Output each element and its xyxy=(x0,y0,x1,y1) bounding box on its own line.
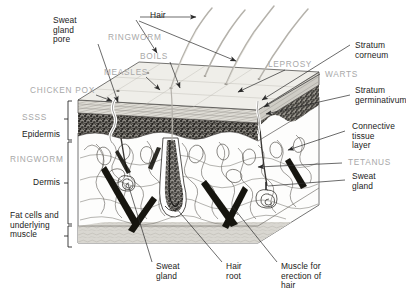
label-ringworm-left: RINGWORM xyxy=(10,155,64,165)
label-muscle-erection: Muscle for erection of hair xyxy=(281,262,321,291)
label-measles: MEASLES xyxy=(104,68,148,78)
label-tetanus: TETANUS xyxy=(348,158,391,168)
label-stratum-germinativum: Stratum germinativum xyxy=(355,86,406,105)
label-connective-tissue-layer: Connective tissue layer xyxy=(352,122,395,151)
label-hair-root: Hair root xyxy=(226,262,242,281)
label-sweat-gland-bottom: Sweat gland xyxy=(156,262,180,281)
label-sweat-gland-pore: Sweat gland pore xyxy=(53,16,77,45)
label-sweat-gland-right: Sweat gland xyxy=(352,172,376,191)
label-ssss: SSSS xyxy=(22,113,47,123)
label-dermis: Dermis xyxy=(33,178,60,188)
label-warts: WARTS xyxy=(325,70,358,80)
label-chicken-pox: CHICKEN POX xyxy=(30,86,95,96)
layer-brackets xyxy=(64,101,72,247)
label-boils: BOILS xyxy=(140,52,168,62)
label-ringworm-top: RINGWORM xyxy=(108,33,162,43)
label-epidermis: Epidermis xyxy=(22,130,60,140)
label-stratum-corneum: Stratum corneum xyxy=(355,41,388,60)
label-hair: Hair xyxy=(150,11,166,21)
label-leprosy: LEPROSY xyxy=(268,60,312,70)
label-fat-cells: Fat cells and underlying muscle xyxy=(10,211,59,240)
